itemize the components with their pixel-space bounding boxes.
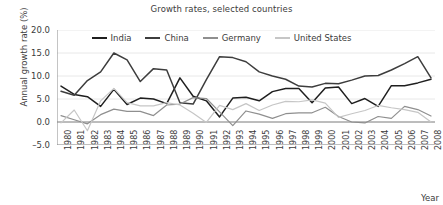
y-axis-tick-label: 0.0 — [16, 117, 50, 127]
y-axis-tick-label: 15.0 — [16, 48, 50, 58]
chart-figure: Growth rates, selected countries Annual … — [0, 0, 443, 205]
y-axis-tick-label: 10.0 — [16, 71, 50, 81]
plot-area — [57, 30, 435, 145]
y-axis-tick-label: 20.0 — [16, 25, 50, 35]
series-canvas — [57, 30, 435, 145]
series-line-germany — [61, 98, 431, 126]
x-axis-tick-label: 2008 — [434, 130, 443, 150]
series-line-china — [61, 53, 431, 104]
y-axis-tick-label: 5.0 — [16, 94, 50, 104]
chart-title: Growth rates, selected countries — [0, 4, 443, 14]
y-axis-tick-label: –5.0 — [16, 140, 50, 150]
x-axis-label: Year — [421, 193, 439, 203]
